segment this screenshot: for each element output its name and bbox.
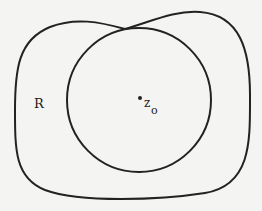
region-label: R	[34, 96, 44, 111]
center-point	[138, 96, 142, 100]
center-subscript: o	[151, 104, 158, 117]
center-label: z	[144, 96, 150, 110]
disk-boundary	[67, 28, 211, 172]
